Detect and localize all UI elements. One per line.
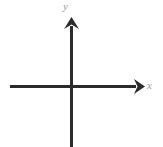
figure-canvas: y x (0, 0, 163, 147)
x-axis-label: x (147, 80, 152, 91)
y-axis-label: y (63, 1, 68, 12)
coordinate-axes-graphic (0, 0, 163, 147)
